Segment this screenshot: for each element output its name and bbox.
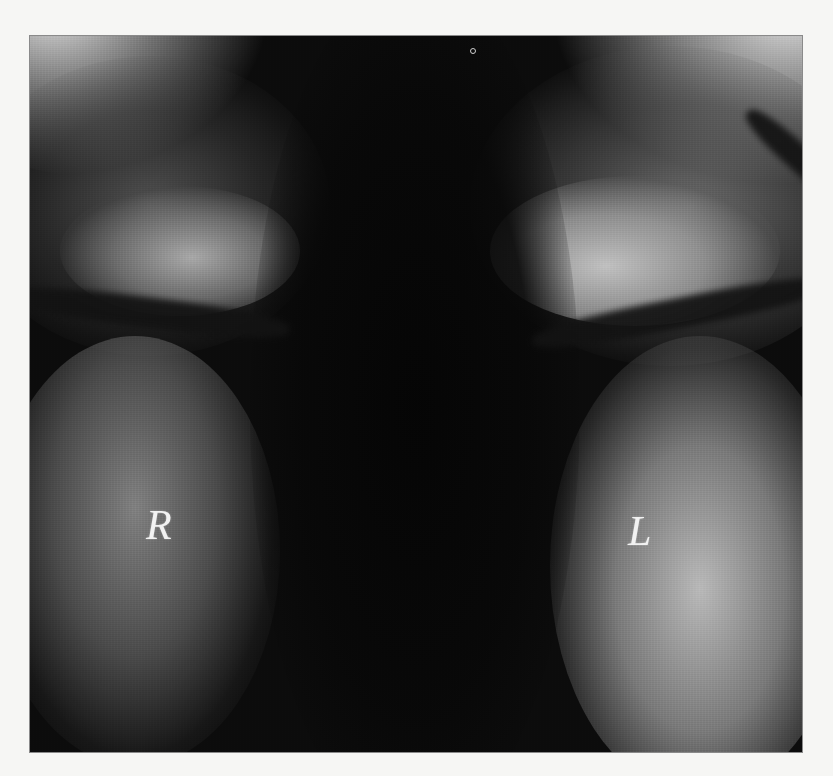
page: R L — [0, 0, 833, 776]
left-side-label: L — [628, 510, 651, 552]
marker-dot — [470, 48, 476, 54]
right-side-label: R — [146, 504, 172, 546]
film-grain — [30, 36, 802, 752]
radiograph-image: R L — [30, 36, 802, 752]
